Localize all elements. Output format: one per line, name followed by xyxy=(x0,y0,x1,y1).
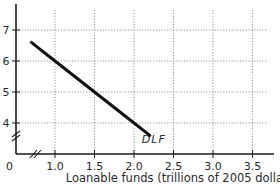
tick-marks xyxy=(12,30,253,158)
tick-labels: 0 1.01.52.02.53.03.54567 xyxy=(3,24,262,173)
loanable-funds-chart: 0 1.01.52.02.53.03.54567 DLF Loanable fu… xyxy=(0,0,280,185)
data-series: DLF xyxy=(31,42,165,145)
dlf-label: DLF xyxy=(142,133,166,146)
x-axis-title: Loanable funds (trillions of 2005 dollar… xyxy=(66,171,280,185)
y-tick-label: 4 xyxy=(3,117,10,130)
y-tick-label: 5 xyxy=(3,86,10,99)
dlf-line xyxy=(31,42,150,135)
y-tick-label: 7 xyxy=(3,24,10,37)
origin-label: 0 xyxy=(6,160,13,173)
y-tick-label: 6 xyxy=(3,55,10,68)
x-tick-label: 1.0 xyxy=(46,160,64,173)
